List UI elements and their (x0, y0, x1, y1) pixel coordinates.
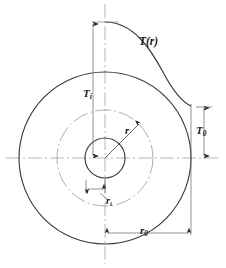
outer-temperature-symbol: T (196, 124, 203, 136)
radius-vector (105, 124, 139, 158)
inner-temperature-label: Ti (83, 88, 92, 99)
inner-radius-dimension (86, 178, 107, 199)
outer-radius-subscript: 0 (144, 229, 148, 238)
outer-temperature-label: T0 (196, 125, 206, 136)
radius-variable-label: r (125, 126, 129, 137)
radius-arrow-line (105, 124, 139, 158)
outer-radius-label: r0 (140, 225, 148, 236)
temperature-profile-label: T(r) (139, 36, 158, 48)
diagram-canvas (0, 0, 226, 268)
outer-temperature-subscript: 0 (203, 129, 207, 138)
radius-variable-symbol: r (125, 125, 129, 136)
inner-radius-subscript: i (110, 200, 112, 207)
temperature-distribution-figure: T(r) Ti T0 ri r0 r (0, 0, 226, 268)
inner-radius-label: ri (106, 196, 112, 206)
temperature-profile-argument: (r) (146, 35, 158, 47)
inner-temperature-symbol: T (83, 87, 90, 99)
inner-temperature-subscript: i (90, 92, 92, 101)
temperature-profile-symbol: T (139, 35, 146, 47)
